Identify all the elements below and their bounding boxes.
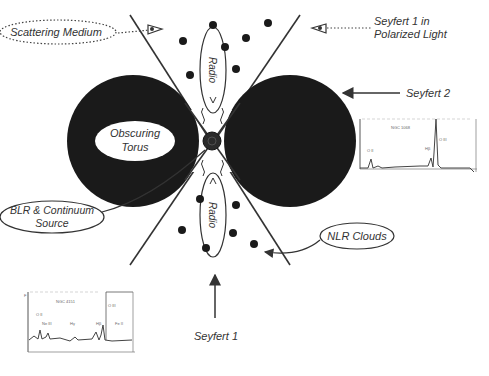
svg-text:NLR Clouds: NLR Clouds xyxy=(327,230,387,242)
agn-diagram: Obscuring Torus Radio Radio xyxy=(0,0,489,376)
svg-text:Obscuring: Obscuring xyxy=(110,127,161,139)
seyfert1-label: Seyfert 1 xyxy=(194,275,238,342)
svg-text:Hβ: Hβ xyxy=(96,321,102,326)
svg-text:O II: O II xyxy=(36,312,42,317)
svg-text:Torus: Torus xyxy=(121,141,149,153)
svg-text:Polarized Light: Polarized Light xyxy=(374,28,448,40)
svg-text:Seyfert 1 in: Seyfert 1 in xyxy=(374,15,430,27)
svg-text:O III: O III xyxy=(439,137,447,142)
nlr-clouds-label: NLR Clouds xyxy=(265,223,394,253)
scattering-medium-label: Scattering Medium xyxy=(0,20,150,44)
svg-text:Seyfert 1: Seyfert 1 xyxy=(194,330,238,342)
svg-text:O III: O III xyxy=(108,303,116,308)
radio-jet-top: Radio xyxy=(200,27,226,113)
svg-text:Radio: Radio xyxy=(207,202,218,229)
seyfert2-spectrum: NGC 1068 O II Hβ O III xyxy=(360,119,477,172)
svg-text:Seyfert 2: Seyfert 2 xyxy=(406,87,450,99)
seyfert2-label: Seyfert 2 xyxy=(343,87,450,99)
svg-text:Radio: Radio xyxy=(207,57,218,84)
svg-text:Hβ: Hβ xyxy=(425,146,431,151)
svg-text:Hγ: Hγ xyxy=(70,321,75,326)
svg-text:BLR & Continuum: BLR & Continuum xyxy=(10,204,94,216)
black-hole-icon xyxy=(203,132,221,150)
eye-icon xyxy=(312,24,326,33)
svg-text:Ne III: Ne III xyxy=(42,321,52,326)
radio-jet-bottom: Radio xyxy=(200,173,226,257)
obscuring-torus-label: Obscuring Torus xyxy=(95,121,175,161)
svg-text:Scattering Medium: Scattering Medium xyxy=(10,26,102,38)
svg-text:F: F xyxy=(24,293,27,298)
svg-text:NGC 1068: NGC 1068 xyxy=(391,125,411,130)
svg-text:NGC 4151: NGC 4151 xyxy=(56,299,76,304)
seyfert1-spectrum: NGC 4151 O II Ne III Hγ Hβ O III Fe II F xyxy=(24,292,135,352)
svg-text:Source: Source xyxy=(35,217,68,229)
svg-text:Fe II: Fe II xyxy=(115,321,123,326)
svg-text:O II: O II xyxy=(367,148,373,153)
seyfert1-polarized-label: Seyfert 1 in Polarized Light xyxy=(312,15,448,40)
eye-icon xyxy=(148,25,162,34)
